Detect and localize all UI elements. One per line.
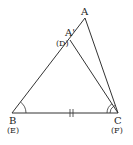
segment-ac <box>85 18 118 113</box>
vertex-label-b: B <box>9 115 16 126</box>
triangle-diagram: A A' (D) B (E) C (F) <box>0 0 133 145</box>
vertex-label-f: (F) <box>111 126 123 135</box>
vertex-label-a: A <box>80 6 89 17</box>
vertex-label-e: (E) <box>7 126 19 135</box>
segment-a-prime-c <box>70 40 118 113</box>
vertex-label-c: C <box>114 115 122 126</box>
angle-arc-c <box>107 104 115 113</box>
angle-arc-b <box>21 102 27 113</box>
vertex-label-d: (D) <box>56 39 69 48</box>
vertex-label-a-prime: A' <box>64 27 75 38</box>
